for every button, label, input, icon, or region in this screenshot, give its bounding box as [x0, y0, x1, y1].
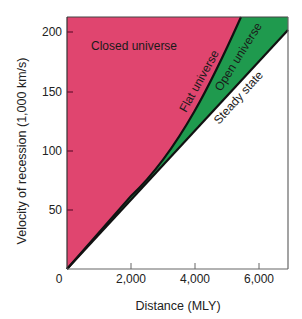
y-tick-150: 150: [42, 85, 62, 99]
x-tick-2000: 2,000: [116, 272, 146, 286]
x-axis-label: Distance (MLY): [135, 299, 220, 313]
x-tick-4000: 4,000: [180, 272, 210, 286]
closed-universe-label: Closed universe: [91, 39, 177, 53]
x-tick-0: 0: [56, 272, 63, 286]
y-axis-label: Velocity of recession (1,000 km/s): [15, 58, 29, 245]
hubble-diagram-chart: 200 150 100 50 0 2,000 4,000 6,000 Dista…: [0, 0, 302, 319]
y-tick-100: 100: [42, 144, 62, 158]
y-tick-200: 200: [42, 25, 62, 39]
y-tick-50: 50: [49, 203, 63, 217]
x-tick-6000: 6,000: [244, 272, 274, 286]
